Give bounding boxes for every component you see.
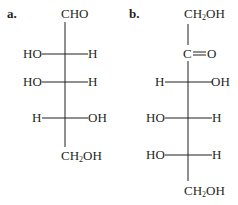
structure-b: b. CH2OH C O H OH HO H HO H CH2OH <box>129 6 230 199</box>
structure-a-label: a. <box>7 6 17 21</box>
structure-a-row1-left: HO <box>23 46 42 61</box>
structure-b-row2-left: HO <box>146 110 165 125</box>
structure-a-row3-right: OH <box>88 110 107 125</box>
structure-b-row1-left: H <box>155 74 164 89</box>
structure-a-row2-left: HO <box>23 74 42 89</box>
structure-b-carbonyl-oxygen: O <box>207 46 216 61</box>
structure-b-row1-right: OH <box>211 74 230 89</box>
structure-a-row2-right: H <box>88 74 97 89</box>
structure-b-row3-left: HO <box>146 147 165 162</box>
structure-a-bottom-group: CH2OH <box>61 148 102 164</box>
structure-a: a. CHO HO H HO H H OH CH2OH <box>7 6 107 164</box>
fischer-projections-figure: a. CHO HO H HO H H OH CH2OH b. CH2OH C O… <box>0 0 238 205</box>
structure-a-row1-right: H <box>88 46 97 61</box>
structure-a-top-group: CHO <box>61 6 88 21</box>
structure-a-row3-left: H <box>32 110 41 125</box>
structure-b-bottom-group: CH2OH <box>184 183 225 199</box>
structure-b-top-group: CH2OH <box>184 6 225 22</box>
structure-b-row2-right: H <box>212 110 221 125</box>
structure-b-carbonyl-carbon: C <box>183 46 192 61</box>
structure-b-row3-right: H <box>212 147 221 162</box>
structure-b-label: b. <box>129 6 139 21</box>
